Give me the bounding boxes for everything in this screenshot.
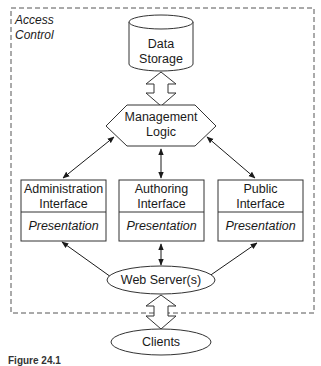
logic-admin-arrow [63, 137, 114, 178]
clients-label: Clients [111, 335, 211, 350]
admin-interface-line2: Interface [21, 197, 106, 212]
management-logic-line2: Logic [106, 125, 216, 140]
public-interface-line1: Public [218, 182, 303, 197]
management-logic-label: Management Logic [106, 110, 216, 140]
public-presentation-label: Presentation [218, 219, 303, 234]
authoring-presentation-label: Presentation [119, 219, 204, 234]
figure-caption: Figure 24.1 [8, 355, 61, 366]
data-storage-line1: Data [129, 37, 193, 52]
authoring-interface-line1: Authoring [119, 182, 204, 197]
data-storage-label: Data Storage [129, 37, 193, 67]
public-interface-line2: Interface [218, 197, 303, 212]
logic-public-arrow [207, 137, 255, 178]
management-logic-line1: Management [106, 110, 216, 125]
authoring-interface-label: Authoring Interface [119, 182, 204, 212]
storage-logic-block-arrow [146, 72, 176, 106]
authoring-interface-line2: Interface [119, 197, 204, 212]
webserver-clients-block-arrow [146, 295, 176, 329]
web-servers-label: Web Server(s) [107, 273, 215, 288]
admin-interface-label: Administration Interface [21, 182, 106, 212]
admin-interface-line1: Administration [21, 182, 106, 197]
data-storage-line2: Storage [129, 52, 193, 67]
admin-presentation-label: Presentation [21, 219, 106, 234]
access-control-label-line1: Access [15, 13, 54, 28]
public-interface-label: Public Interface [218, 182, 303, 212]
access-control-label-line2: Control [15, 28, 54, 43]
access-control-label: Access Control [15, 13, 54, 43]
